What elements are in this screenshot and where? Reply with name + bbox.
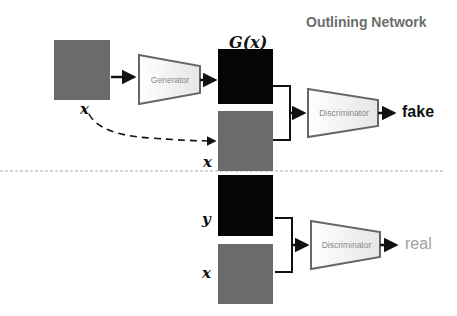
label-x-pair-real: x — [202, 264, 211, 282]
ground-truth-image-y — [218, 175, 273, 236]
discriminator-bottom-label: Discriminator — [313, 240, 380, 250]
output-real: real — [405, 235, 432, 253]
paired-image-x-fake — [218, 111, 273, 171]
generator-label: Generator — [140, 75, 200, 85]
figure-title: Outlining Network — [306, 14, 427, 30]
label-x-pair-fake: x — [203, 153, 212, 171]
output-fake: fake — [402, 103, 434, 121]
label-x-input: x — [80, 100, 89, 118]
generated-outline-image — [218, 49, 273, 104]
input-image-x — [54, 40, 110, 100]
paired-image-x-real — [218, 244, 273, 304]
discriminator-top-label: Discriminator — [310, 108, 378, 118]
label-y-real: y — [202, 210, 211, 228]
